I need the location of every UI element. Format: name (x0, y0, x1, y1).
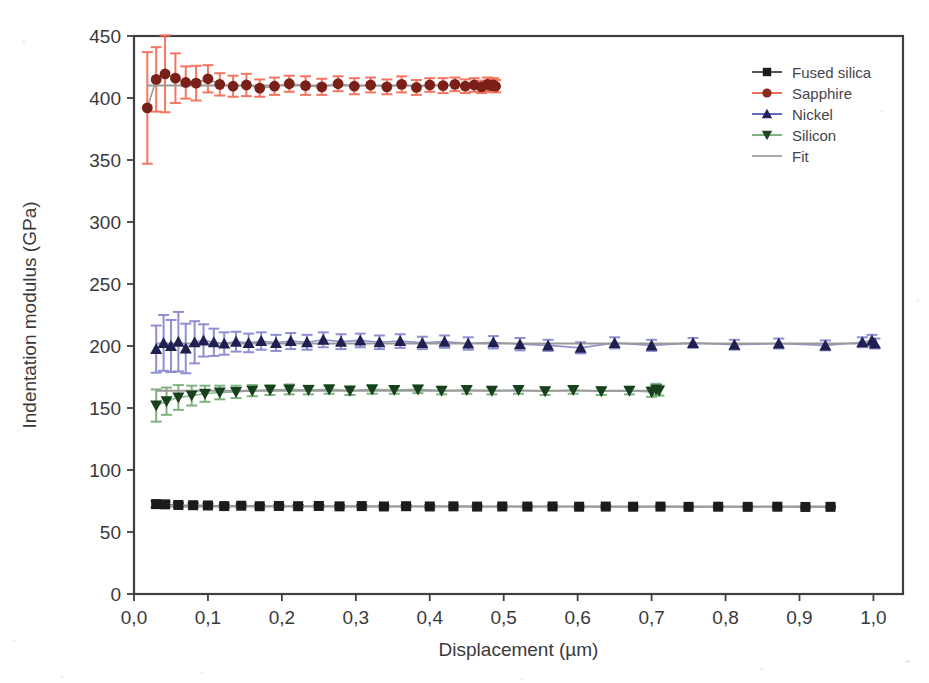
data-point-marker (438, 80, 449, 91)
y-tick-label: 100 (89, 460, 121, 481)
y-axis-title: Indentation modulus (GPa) (19, 201, 40, 428)
data-point-marker (333, 78, 344, 89)
data-point-marker (314, 501, 324, 511)
x-tick-label: 0,0 (121, 607, 147, 628)
data-point-marker (379, 501, 389, 511)
data-point-marker (170, 73, 181, 84)
data-point-marker (214, 79, 225, 90)
data-point-marker (381, 81, 392, 92)
data-point-marker (203, 500, 213, 510)
data-point-marker (151, 499, 161, 509)
data-point-marker (655, 502, 665, 512)
chart-background (0, 0, 929, 683)
data-point-marker (762, 88, 771, 97)
data-point-marker (772, 502, 782, 512)
y-tick-label: 350 (89, 150, 121, 171)
x-axis-title: Displacement (µm) (439, 639, 599, 660)
data-point-marker (316, 81, 327, 92)
legend-label-nickel[interactable]: Nickel (792, 106, 833, 123)
indentation-modulus-chart: 0501001502002503003504004500,00,10,20,30… (0, 0, 929, 683)
data-point-marker (411, 82, 422, 93)
y-tick-label: 50 (100, 522, 121, 543)
y-tick-label: 300 (89, 212, 121, 233)
data-point-marker (424, 80, 435, 91)
data-point-marker (522, 502, 532, 512)
data-point-marker (228, 81, 239, 92)
data-point-marker (574, 502, 584, 512)
data-point-marker (472, 502, 482, 512)
data-point-marker (219, 501, 229, 511)
data-point-marker (365, 80, 376, 91)
x-tick-label: 1,0 (860, 607, 886, 628)
legend-label-fused-silica[interactable]: Fused silica (792, 64, 872, 81)
data-point-marker (236, 501, 246, 511)
data-point-marker (335, 501, 345, 511)
data-point-marker (254, 83, 265, 94)
data-point-marker (188, 500, 198, 510)
legend-label-fit[interactable]: Fit (792, 148, 809, 165)
data-point-marker (357, 501, 367, 511)
data-point-marker (448, 501, 458, 511)
data-point-marker (800, 502, 810, 512)
y-tick-label: 400 (89, 88, 121, 109)
y-tick-label: 200 (89, 336, 121, 357)
data-point-marker (293, 501, 303, 511)
data-point-marker (743, 502, 753, 512)
data-point-marker (396, 79, 407, 90)
legend-label-silicon[interactable]: Silicon (792, 127, 836, 144)
data-point-marker (497, 501, 507, 511)
data-point-marker (601, 502, 611, 512)
data-point-marker (763, 68, 771, 76)
data-point-marker (490, 81, 501, 92)
x-tick-label: 0,6 (564, 607, 590, 628)
data-point-marker (151, 74, 162, 85)
y-tick-label: 450 (89, 26, 121, 47)
data-point-marker (269, 81, 280, 92)
data-point-marker (401, 501, 411, 511)
data-point-marker (203, 73, 214, 84)
x-tick-label: 0,8 (712, 607, 738, 628)
data-point-marker (180, 77, 191, 88)
data-point-marker (713, 502, 723, 512)
data-point-marker (628, 502, 638, 512)
data-point-marker (255, 501, 265, 511)
x-tick-label: 0,1 (195, 607, 221, 628)
data-point-marker (548, 501, 558, 511)
x-tick-label: 0,5 (491, 607, 517, 628)
y-tick-label: 150 (89, 398, 121, 419)
data-point-marker (450, 79, 461, 90)
x-tick-label: 0,3 (343, 607, 369, 628)
data-point-marker (300, 80, 311, 91)
data-point-marker (274, 501, 284, 511)
data-point-marker (160, 68, 171, 79)
x-tick-label: 0,2 (269, 607, 295, 628)
data-point-marker (160, 499, 170, 509)
data-point-marker (241, 80, 252, 91)
data-point-marker (684, 502, 694, 512)
x-tick-label: 0,9 (786, 607, 812, 628)
data-point-marker (284, 78, 295, 89)
x-tick-label: 0,4 (417, 607, 444, 628)
data-point-marker (826, 502, 836, 512)
figure-canvas: 0501001502002503003504004500,00,10,20,30… (0, 0, 929, 683)
data-point-marker (191, 78, 202, 89)
legend-label-sapphire[interactable]: Sapphire (792, 85, 852, 102)
data-point-marker (349, 81, 360, 92)
y-tick-label: 0 (110, 584, 121, 605)
y-tick-label: 250 (89, 274, 121, 295)
data-point-marker (425, 501, 435, 511)
x-tick-label: 0,7 (638, 607, 664, 628)
data-point-marker (142, 103, 153, 114)
data-point-marker (173, 500, 183, 510)
